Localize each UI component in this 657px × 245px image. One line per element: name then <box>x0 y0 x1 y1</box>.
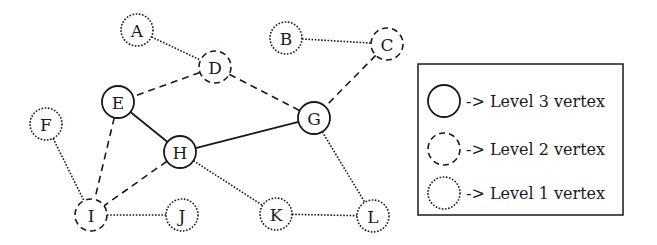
edge-e-h <box>130 112 167 142</box>
edge-d-g <box>229 74 300 110</box>
node-label: K <box>270 205 283 225</box>
node-d: D <box>199 51 231 83</box>
node-label: A <box>130 21 144 41</box>
legend-swatch-solid <box>428 85 460 117</box>
node-a: A <box>121 14 153 46</box>
node-label: J <box>177 206 186 226</box>
edge-h-k <box>193 161 262 206</box>
node-label: L <box>367 207 378 227</box>
node-b: B <box>270 22 302 54</box>
node-label: E <box>112 93 124 113</box>
node-k: K <box>260 198 292 230</box>
edge-f-i <box>53 138 84 200</box>
edge-e-i <box>95 118 115 200</box>
edge-h-i <box>104 161 167 206</box>
edge-c-g <box>325 55 376 106</box>
nodes-layer: ABCDEFGHIJKL <box>30 14 403 232</box>
node-label: C <box>380 35 393 55</box>
legend-item-level-1: -> Level 1 vertex <box>428 177 605 209</box>
edge-k-l <box>292 214 357 215</box>
node-label: G <box>307 109 321 129</box>
legend-swatch-dotted <box>428 177 460 209</box>
node-label: B <box>280 29 293 49</box>
legend-item-level-2: -> Level 2 vertex <box>428 133 605 165</box>
node-c: C <box>371 28 403 60</box>
legend-label: -> Level 3 vertex <box>466 92 605 111</box>
node-j: J <box>166 199 198 231</box>
node-label: H <box>173 143 188 163</box>
legend: -> Level 3 vertex-> Level 2 vertex-> Lev… <box>418 64 623 215</box>
graph-diagram: ABCDEFGHIJKL -> Level 3 vertex-> Level 2… <box>0 0 657 245</box>
node-h: H <box>164 136 196 168</box>
node-f: F <box>30 108 62 140</box>
node-g: G <box>298 102 330 134</box>
legend-item-level-3: -> Level 3 vertex <box>428 85 605 117</box>
edge-a-d <box>151 37 200 60</box>
edge-d-e <box>133 72 200 96</box>
node-label: F <box>40 115 52 135</box>
legend-label: -> Level 1 vertex <box>466 184 605 203</box>
node-label: D <box>208 58 222 78</box>
edge-g-l <box>322 132 364 203</box>
legend-label: -> Level 2 vertex <box>466 140 605 159</box>
node-label: I <box>88 206 95 226</box>
edge-b-c <box>302 39 371 43</box>
node-i: I <box>75 199 107 231</box>
node-l: L <box>357 200 389 232</box>
node-e: E <box>102 86 134 118</box>
edge-h-g <box>196 122 299 148</box>
legend-swatch-dashed <box>428 133 460 165</box>
